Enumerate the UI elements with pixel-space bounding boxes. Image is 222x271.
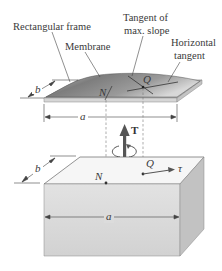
label-tangent-max-slope-2: max. slope <box>124 25 170 36</box>
membrane-surface <box>46 73 200 97</box>
label-a-bottom: a <box>106 210 112 222</box>
point-q-top-dot <box>142 86 145 89</box>
point-n-bottom-dot <box>105 182 108 185</box>
dim-a-top <box>44 104 177 122</box>
frame-front-edge <box>44 98 177 102</box>
label-q-bottom: Q <box>146 157 154 169</box>
label-membrane: Membrane <box>65 41 111 52</box>
label-b-bottom: b <box>35 162 41 174</box>
label-horizontal-tangent-2: tangent <box>174 50 205 61</box>
label-b-top: b <box>35 83 41 95</box>
membrane-analogy-diagram: Rectangular frame Membrane Tangent of ma… <box>0 0 222 271</box>
label-tangent-max-slope-1: Tangent of <box>123 12 169 23</box>
label-rectangular-frame: Rectangular frame <box>13 21 91 32</box>
label-torque: T <box>131 124 139 136</box>
label-n-top: N <box>98 86 107 98</box>
label-n-bottom: N <box>94 170 103 182</box>
label-q-top: Q <box>143 73 151 85</box>
membrane-frame-group <box>44 73 202 102</box>
label-a-top: a <box>80 110 86 122</box>
label-horizontal-tangent-1: Horizontal <box>171 37 216 48</box>
